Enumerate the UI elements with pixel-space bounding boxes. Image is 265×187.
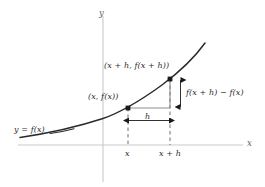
point-lower-marker <box>126 106 131 111</box>
y-axis-label: y <box>99 9 104 18</box>
tick-label-x-plus-h: x + h <box>159 150 181 158</box>
point-upper-marker <box>168 77 173 82</box>
difference-quotient-figure: y x (x + h, f(x + h)) (x, f(x)) y = f(x)… <box>0 0 265 187</box>
function-curve <box>20 43 205 138</box>
curve-label: y = f(x) <box>14 126 45 134</box>
rise-label: f(x + h) − f(x) <box>186 89 244 97</box>
run-label: h <box>145 113 150 121</box>
tick-label-x: x <box>125 150 130 158</box>
x-axis-label: x <box>247 139 252 148</box>
point-upper-label: (x + h, f(x + h)) <box>104 62 169 70</box>
point-lower-label: (x, f(x)) <box>88 93 118 101</box>
